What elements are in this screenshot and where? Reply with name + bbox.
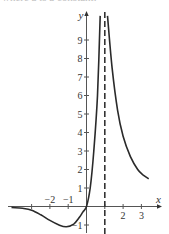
x-axis-label: x [155,193,161,205]
curves [12,16,149,227]
y-tick-label: 2 [78,164,83,175]
y-axis-arrow-icon [84,11,88,16]
function-graph: xy −2−123−1123456789 [0,0,169,234]
x-tick-label: 2 [121,210,126,221]
y-tick-label: 3 [78,146,83,157]
y-tick-label: 9 [78,35,83,46]
y-tick-label: 4 [78,127,83,138]
axes: xy [8,9,162,233]
y-tick-label: 5 [78,109,83,120]
y-tick-label: −1 [72,220,83,231]
y-tick-label: 1 [78,183,83,194]
y-tick-label: 6 [78,90,83,101]
y-tick-label: 8 [78,53,83,64]
y-tick-label: 7 [78,72,83,83]
right-branch-curve [108,16,149,179]
y-axis-label: y [78,9,84,21]
x-axis-arrow-icon [157,204,162,208]
x-tick-label: 3 [139,210,144,221]
x-tick-label: −2 [45,194,56,205]
x-tick-label: −1 [63,194,74,205]
tick-labels: −2−123−1123456789 [45,35,144,231]
